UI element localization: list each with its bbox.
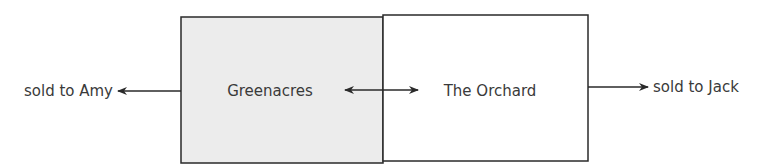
diagram-canvas: Greenacres The Orchard sold to Amy sold …	[0, 0, 766, 167]
orchard-label: The Orchard	[443, 82, 537, 100]
greenacres-label: Greenacres	[227, 82, 313, 100]
box-the-orchard: The Orchard	[383, 15, 588, 161]
sold-to-jack-label: sold to Jack	[653, 78, 739, 96]
sold-to-amy-label: sold to Amy	[24, 82, 113, 100]
